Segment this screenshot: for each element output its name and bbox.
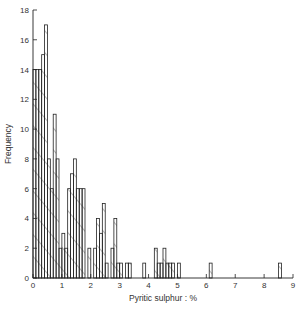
histogram-bar (120, 263, 123, 278)
x-tick-label: 1 (60, 281, 65, 290)
axes: 0123456789024681012141618 (20, 6, 296, 290)
histogram-bar (88, 248, 91, 278)
y-tick-label: 12 (20, 95, 29, 104)
x-tick-label: 6 (204, 281, 209, 290)
histogram-bar (73, 159, 76, 278)
histogram-bar (105, 263, 108, 278)
y-tick-label: 4 (25, 214, 30, 223)
y-tick-label: 18 (20, 6, 29, 15)
x-tick-label: 3 (117, 281, 122, 290)
histogram-bar (128, 263, 131, 278)
histogram-bar (47, 159, 50, 278)
y-tick-label: 8 (25, 155, 30, 164)
histogram-bar (71, 174, 74, 278)
histogram-bar (160, 263, 163, 278)
y-tick-label: 16 (20, 36, 29, 45)
histogram-bar (117, 263, 120, 278)
histogram-bar (65, 248, 68, 278)
histogram-chart: 0123456789024681012141618 Pyritic sulphu… (0, 0, 301, 310)
histogram-bar (42, 55, 45, 278)
histogram-bar (79, 189, 82, 278)
histogram-bar (97, 218, 100, 278)
y-tick-label: 10 (20, 125, 29, 134)
histogram-bar (45, 25, 48, 278)
histogram-bar (279, 263, 282, 278)
histogram-bar (102, 204, 105, 278)
y-tick-label: 6 (25, 185, 30, 194)
histogram-bar (82, 189, 85, 278)
histogram-bar (94, 248, 97, 278)
histogram-bar (50, 189, 53, 278)
x-axis-label: Pyritic sulphur : % (129, 293, 197, 303)
histogram-bar (111, 248, 114, 278)
x-tick-label: 4 (146, 281, 151, 290)
x-tick-label: 8 (262, 281, 267, 290)
histogram-bar (56, 159, 59, 278)
x-tick-label: 9 (291, 281, 296, 290)
x-tick-label: 5 (175, 281, 180, 290)
histogram-bar (143, 263, 146, 278)
x-tick-label: 2 (89, 281, 94, 290)
histogram-bar (209, 263, 212, 278)
histogram-bar (99, 233, 102, 278)
y-tick-label: 2 (25, 244, 30, 253)
histogram-bar (166, 263, 169, 278)
histogram-bar (172, 263, 175, 278)
histogram-bar (125, 263, 128, 278)
histogram-bar (39, 70, 42, 278)
y-axis-label: Frequency (3, 123, 13, 164)
histogram-bar (177, 263, 180, 278)
histogram-bar (114, 218, 117, 278)
histogram-bar (53, 114, 56, 278)
histogram-bar (169, 263, 172, 278)
y-tick-label: 14 (20, 66, 29, 75)
histogram-bars (33, 25, 281, 278)
histogram-bar (59, 248, 62, 278)
histogram-bar (154, 248, 157, 278)
histogram-bar (68, 189, 71, 278)
histogram-bar (76, 189, 79, 278)
x-tick-label: 7 (233, 281, 238, 290)
histogram-bar (62, 233, 65, 278)
histogram-bar (157, 263, 160, 278)
histogram-bar (163, 248, 166, 278)
y-tick-label: 0 (25, 274, 30, 283)
histogram-bar (36, 70, 39, 278)
x-tick-label: 0 (31, 281, 36, 290)
